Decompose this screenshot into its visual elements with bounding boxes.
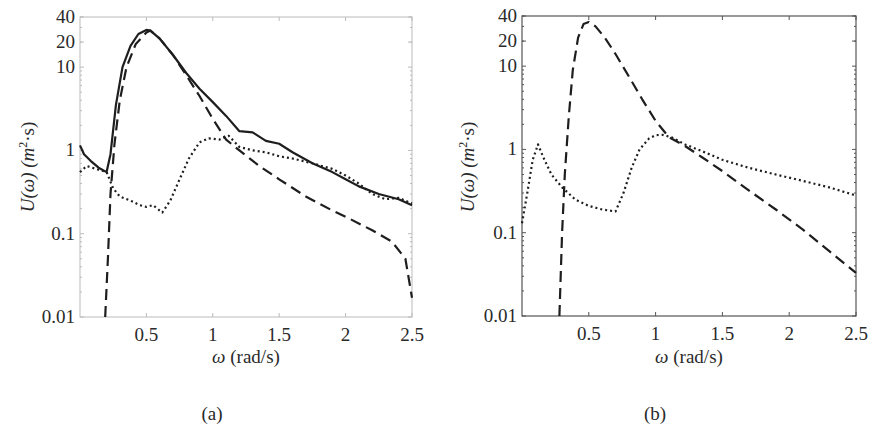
panel-b-y-tick-label: 10 — [498, 55, 517, 76]
panel-b-dashed-curve — [559, 22, 856, 316]
panel-a-dashed-curve — [105, 31, 412, 317]
panel-a-y-tick-label: 0.01 — [42, 306, 75, 327]
panel-b-x-tick-label: 1 — [651, 323, 661, 344]
panel-b-x-ticks: 0.511.522.5 — [577, 16, 868, 344]
svg-text:U(ω) (m2·s): U(ω) (m2·s) — [456, 122, 479, 213]
panel-a-x-tick-label: 2 — [341, 324, 351, 345]
panel-b-caption: (b) — [644, 403, 666, 425]
panel-a-y-tick-label: 40 — [56, 6, 75, 27]
panel-a-x-tick-label: 0.5 — [135, 324, 159, 345]
panel-b-x-tick-label: 2.5 — [844, 323, 868, 344]
panel-a-dotted-curve — [80, 136, 412, 213]
panel-b-x-tick-label: 1.5 — [711, 323, 735, 344]
panel-b-xlabel-omega: ω — [655, 346, 668, 367]
panel-a-x-tick-label: 2.5 — [400, 324, 424, 345]
panel-a-xlabel-omega: ω — [212, 346, 225, 367]
panel-b-x-axis-label: ω (rad/s) — [655, 346, 723, 368]
panel-b-y-ticks: 40201010.10.01 — [484, 5, 856, 326]
panel-a-curves — [80, 30, 412, 317]
panel-a-xlabel-unit: (rad/s) — [230, 346, 280, 368]
panel-a-plot-frame — [80, 17, 412, 317]
panel-a-y-tick-label: 20 — [56, 31, 75, 52]
panel-a-y-tick-label: 0.1 — [51, 223, 75, 244]
panel-a-y-tick-label: 1 — [66, 139, 76, 160]
panel-a-y-axis-label: U(ω) (m2·s) — [16, 122, 39, 213]
panel-b-plot-frame — [522, 16, 856, 316]
panel-b-ylabel-tail: ·s) — [457, 122, 479, 142]
figure: 40201010.10.01 0.511.522.5 U(ω) (m2·s) ω… — [0, 0, 872, 431]
panel-a-x-tick-label: 1.5 — [267, 324, 291, 345]
panel-a-y-tick-label: 10 — [56, 56, 75, 77]
panel-b-y-tick-label: 20 — [498, 30, 517, 51]
panel-b-ylabel-main: U(ω) (m — [457, 148, 479, 213]
panel-b-curves — [522, 22, 856, 316]
panel-b-y-tick-label: 0.01 — [484, 305, 517, 326]
panel-a-ylabel-main: U(ω) (m — [17, 148, 39, 213]
panel-a-x-tick-label: 1 — [208, 324, 218, 345]
panel-b-y-axis-label: U(ω) (m2·s) — [456, 122, 479, 213]
panel-b-y-tick-label: 40 — [498, 5, 517, 26]
panel-b-xlabel-unit: (rad/s) — [673, 346, 723, 368]
panel-b-x-tick-label: 0.5 — [577, 323, 601, 344]
panel-a-caption: (a) — [201, 403, 222, 425]
panel-b-y-tick-label: 1 — [508, 138, 518, 159]
panel-a-chart: 40201010.10.01 0.511.522.5 U(ω) (m2·s) ω… — [16, 6, 424, 425]
panel-b-chart: 40201010.10.01 0.511.522.5 U(ω) (m2·s) ω… — [456, 5, 868, 425]
svg-text:U(ω) (m2·s): U(ω) (m2·s) — [16, 122, 39, 213]
panel-a-x-axis-label: ω (rad/s) — [212, 346, 280, 368]
panel-b-y-tick-label: 0.1 — [493, 222, 517, 243]
panel-a-ylabel-tail: ·s) — [17, 122, 39, 142]
panel-b-x-tick-label: 2 — [784, 323, 794, 344]
